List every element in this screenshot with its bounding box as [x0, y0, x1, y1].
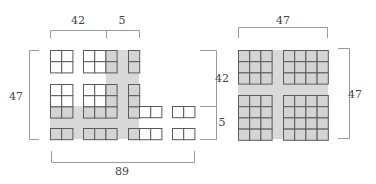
- tiling-diagram: 42 5 47 89 47 42 5 47: [0, 0, 376, 184]
- label-top-5: 5: [119, 14, 126, 27]
- grid-cell: [129, 62, 140, 73]
- grid-cell: [284, 51, 295, 62]
- grid-cell: [84, 107, 95, 118]
- grid-cell: [317, 51, 328, 62]
- label-right-top-47: 47: [276, 14, 290, 27]
- grid-cell: [261, 62, 272, 73]
- grid-cell: [51, 62, 62, 73]
- grid-cell: [306, 118, 317, 129]
- grid-cell: [95, 85, 106, 96]
- grid-cell: [250, 73, 261, 84]
- grid-cell: [239, 118, 250, 129]
- grid-cell: [151, 107, 162, 118]
- grid-cell: [317, 129, 328, 140]
- grid-cell: [62, 96, 73, 107]
- label-right-left-5: 5: [219, 116, 226, 129]
- grid-cell: [129, 129, 140, 140]
- grid-cell: [306, 129, 317, 140]
- grid-cell: [284, 96, 295, 107]
- grid-cell: [106, 129, 117, 140]
- right-top-bracket-47: [239, 28, 328, 39]
- grid-cell: [239, 96, 250, 107]
- right-diagram: 47 42 5 47: [200, 14, 362, 140]
- grid-cell: [106, 96, 117, 107]
- label-left-47: 47: [9, 90, 23, 103]
- grid-cell: [306, 51, 317, 62]
- grid-cell: [295, 129, 306, 140]
- grid-cell: [250, 107, 261, 118]
- grid-cell: [51, 107, 62, 118]
- grid-cell: [295, 118, 306, 129]
- grid-cell: [284, 73, 295, 84]
- grid-cell: [239, 62, 250, 73]
- grid-cell: [62, 107, 73, 118]
- grid-cell: [261, 73, 272, 84]
- grid-cell: [261, 51, 272, 62]
- grid-cell: [62, 62, 73, 73]
- grid-cell: [250, 62, 261, 73]
- label-right-right-47: 47: [348, 88, 362, 101]
- grid-cell: [140, 129, 151, 140]
- top-bracket-42: [51, 31, 107, 39]
- grid-cell: [129, 51, 140, 62]
- left-bracket-47: [30, 51, 40, 140]
- grid-cell: [284, 62, 295, 73]
- grid-cell: [284, 129, 295, 140]
- grid-cell: [295, 96, 306, 107]
- grid-cell: [95, 62, 106, 73]
- grid-cell: [250, 96, 261, 107]
- grid-cell: [261, 129, 272, 140]
- right-left-bracket-5: [200, 107, 217, 140]
- label-top-42: 42: [71, 14, 85, 27]
- grid-cell: [84, 96, 95, 107]
- grid-cell: [317, 107, 328, 118]
- grid-cell: [317, 62, 328, 73]
- grid-cell: [62, 85, 73, 96]
- grid-cell: [306, 96, 317, 107]
- grid-cell: [140, 107, 151, 118]
- grid-cell: [295, 62, 306, 73]
- grid-cell: [250, 51, 261, 62]
- grid-cell: [106, 85, 117, 96]
- grid-cell: [250, 118, 261, 129]
- grid-cell: [173, 107, 184, 118]
- grid-cell: [129, 96, 140, 107]
- grid-cell: [95, 51, 106, 62]
- grid-cell: [84, 85, 95, 96]
- grid-cell: [306, 73, 317, 84]
- grid-cell: [284, 118, 295, 129]
- grid-cell: [317, 118, 328, 129]
- grid-cell: [295, 107, 306, 118]
- bottom-bracket-89: [52, 151, 195, 163]
- grid-cell: [129, 85, 140, 96]
- grid-cell: [151, 129, 162, 140]
- label-right-left-42: 42: [215, 72, 229, 85]
- grid-cell: [95, 96, 106, 107]
- grid-cell: [173, 129, 184, 140]
- grid-cell: [306, 62, 317, 73]
- grid-cell: [84, 129, 95, 140]
- left-diagram: 42 5 47 89: [9, 14, 195, 178]
- grid-cell: [84, 62, 95, 73]
- grid-cell: [129, 107, 140, 118]
- grid-cell: [239, 51, 250, 62]
- grid-cell: [239, 73, 250, 84]
- grid-cell: [51, 85, 62, 96]
- label-bottom-89: 89: [115, 165, 129, 178]
- grid-cell: [295, 73, 306, 84]
- grid-cell: [317, 96, 328, 107]
- grid-cell: [106, 62, 117, 73]
- grid-cell: [106, 107, 117, 118]
- grid-cell: [261, 96, 272, 107]
- grid-cell: [184, 129, 195, 140]
- grid-cell: [239, 107, 250, 118]
- grid-cell: [284, 107, 295, 118]
- grid-cell: [295, 51, 306, 62]
- grid-cell: [317, 73, 328, 84]
- grid-cell: [261, 107, 272, 118]
- grid-cell: [51, 96, 62, 107]
- top-bracket-5: [107, 31, 140, 39]
- right-cell-blocks: [239, 51, 329, 141]
- grid-cell: [306, 107, 317, 118]
- grid-cell: [261, 118, 272, 129]
